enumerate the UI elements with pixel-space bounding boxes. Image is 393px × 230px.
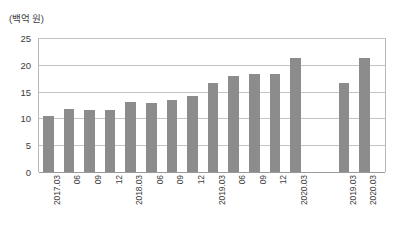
bar: [43, 116, 54, 172]
x-tick-label: 09: [258, 175, 268, 184]
x-tick-label: 2019.03: [348, 175, 358, 205]
x-tick-label: 09: [93, 175, 103, 184]
y-axis-unit-label: (백억 원): [9, 11, 44, 25]
bar: [270, 74, 281, 172]
bar: [208, 83, 219, 172]
y-tick-label: 25: [5, 33, 31, 44]
bars-container: [38, 38, 386, 172]
y-tick-label: 10: [5, 113, 31, 124]
x-tick-label: 12: [278, 175, 288, 184]
x-tick-label: 06: [237, 175, 247, 184]
x-tick-label: 2017.03: [52, 175, 62, 205]
bar: [339, 83, 350, 172]
bar: [64, 109, 75, 172]
bar: [249, 74, 260, 172]
bar: [228, 76, 239, 172]
bar: [146, 103, 157, 172]
x-tick-label: 2018.03: [134, 175, 144, 205]
x-tick-label: 12: [196, 175, 206, 184]
y-tick-label: 0: [5, 167, 31, 178]
y-tick-label: 5: [5, 140, 31, 151]
x-tick-label: 09: [175, 175, 185, 184]
y-tick-label: 20: [5, 59, 31, 70]
bar: [290, 58, 301, 172]
x-tick-label: 2019.03: [217, 175, 227, 205]
bar-chart: (백억 원) 0510152025 2017.030609122018.0306…: [0, 0, 393, 230]
bar: [125, 102, 136, 172]
x-tick-label: 12: [114, 175, 124, 184]
bar: [167, 100, 178, 172]
x-axis-tick-labels: 2017.030609122018.030609122019.030609122…: [38, 172, 386, 230]
x-tick-label: 06: [72, 175, 82, 184]
bar: [84, 110, 95, 172]
bar: [359, 58, 370, 172]
bar: [187, 96, 198, 172]
x-tick-label: 06: [155, 175, 165, 184]
x-tick-label: 2020.03: [368, 175, 378, 205]
y-tick-label: 15: [5, 86, 31, 97]
x-tick-label: 2020.03: [299, 175, 309, 205]
bar: [105, 110, 116, 172]
